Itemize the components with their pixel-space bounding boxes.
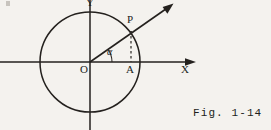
terminal-ray-arrowhead	[163, 4, 174, 14]
point-p-marker	[130, 31, 132, 33]
point-a-label: A	[126, 64, 134, 75]
y-axis-label: Y	[86, 0, 94, 8]
x-axis-label: X	[181, 64, 189, 75]
figure-caption: Fig. 1-14	[193, 107, 262, 119]
point-p-label: P	[127, 14, 133, 25]
origin-label: O	[80, 64, 88, 75]
angle-alpha-label: α	[107, 47, 112, 57]
trigonometry-figure: Y X O A P α Fig. 1-14	[0, 0, 271, 130]
